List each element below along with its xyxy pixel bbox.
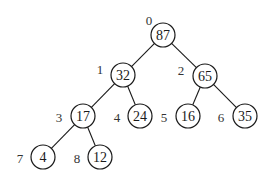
node-value: 87 — [156, 28, 170, 43]
node-value: 32 — [116, 68, 130, 83]
tree-edge — [193, 87, 201, 105]
tree-node: 165 — [161, 104, 200, 128]
tree-edge — [51, 125, 74, 149]
nodes-layer: 87032165217324416535647128 — [17, 13, 257, 170]
node-value: 17 — [76, 109, 90, 124]
node-value: 4 — [40, 150, 47, 165]
tree-node: 321 — [97, 62, 135, 88]
tree-node: 244 — [114, 104, 152, 128]
node-index-label: 3 — [56, 110, 63, 125]
tree-node: 173 — [56, 104, 95, 128]
node-value: 65 — [198, 69, 212, 84]
tree-node: 356 — [218, 104, 257, 128]
tree-edge — [88, 127, 96, 146]
node-index-label: 0 — [146, 13, 153, 28]
tree-node: 652 — [178, 63, 217, 89]
tree-canvas: 87032165217324416535647128 — [0, 0, 270, 180]
tree-node: 47 — [17, 145, 55, 169]
tree-node: 870 — [146, 13, 175, 48]
tree-edge — [131, 43, 154, 66]
node-index-label: 6 — [218, 110, 225, 125]
heap-tree-diagram: 87032165217324416535647128 — [0, 0, 270, 180]
node-index-label: 8 — [74, 151, 81, 166]
node-value: 12 — [93, 150, 107, 165]
node-index-label: 7 — [17, 151, 24, 166]
tree-node: 128 — [74, 145, 112, 169]
tree-edge — [213, 84, 236, 107]
node-index-label: 5 — [161, 110, 168, 125]
edges-layer — [51, 43, 236, 148]
node-index-label: 1 — [97, 62, 104, 77]
node-index-label: 2 — [178, 63, 185, 78]
tree-edge — [91, 84, 114, 108]
node-value: 35 — [238, 109, 252, 124]
node-value: 16 — [181, 109, 195, 124]
node-index-label: 4 — [114, 110, 121, 125]
tree-edge — [128, 86, 136, 105]
node-value: 24 — [133, 109, 147, 124]
